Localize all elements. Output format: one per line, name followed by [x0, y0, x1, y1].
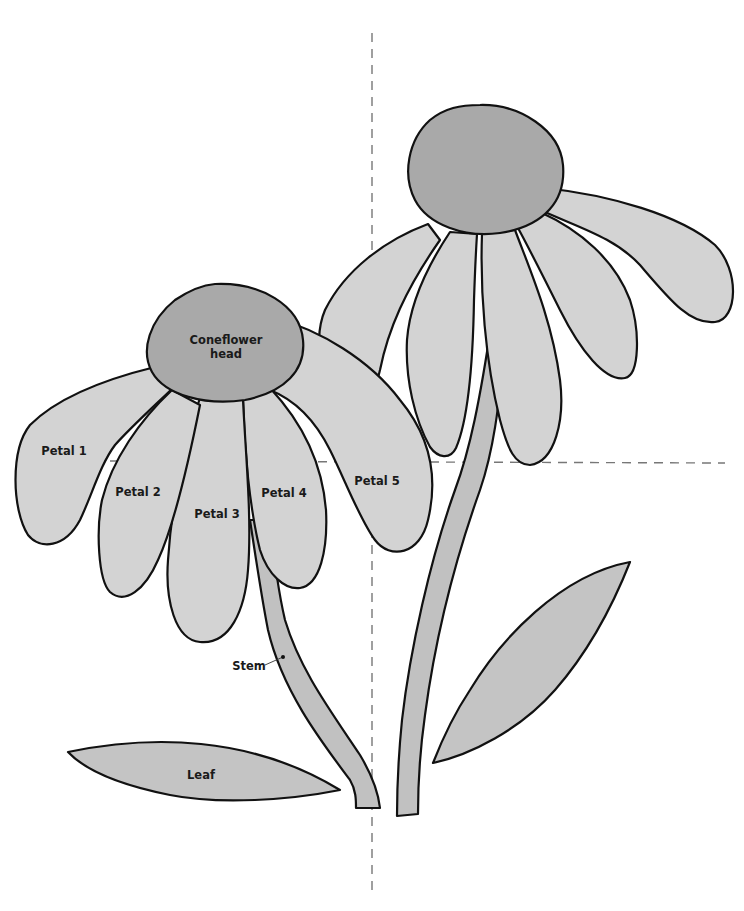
petal-3-label: Petal 3 [194, 507, 239, 521]
petal-5-label: Petal 5 [354, 474, 399, 488]
head-label-line2: head [210, 347, 242, 361]
right-flower-leaf [433, 562, 630, 763]
leaf-label: Leaf [187, 768, 216, 782]
stem-pointer-dot [281, 655, 285, 659]
head-label-line1: Coneflower [190, 333, 263, 347]
petal-2-label: Petal 2 [115, 485, 160, 499]
petal-1-label: Petal 1 [41, 444, 86, 458]
right-flower-head [408, 105, 563, 234]
petal-4-label: Petal 4 [261, 486, 306, 500]
coneflower-diagram: Coneflower head Petal 1 Petal 2 Petal 3 … [0, 0, 744, 911]
stem-label: Stem [232, 659, 266, 673]
